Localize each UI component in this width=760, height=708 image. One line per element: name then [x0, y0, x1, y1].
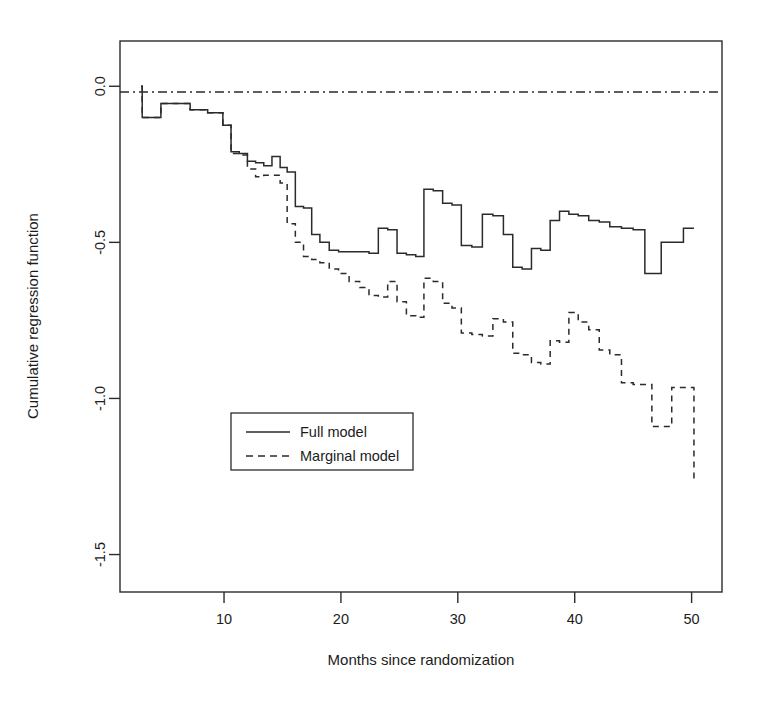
x-tick-label: 10 [216, 611, 232, 627]
y-tick-label: 0.0 [92, 76, 108, 96]
x-axis-title: Months since randomization [328, 651, 515, 668]
y-axis-title: Cumulative regression function [24, 213, 41, 419]
y-tick-label: -0.5 [92, 230, 108, 255]
legend: Full model Marginal model [231, 413, 413, 470]
figure-container: 1020304050 0.0-0.5-1.0-1.5 Months since … [0, 0, 760, 708]
cumulative-regression-step-chart: 1020304050 0.0-0.5-1.0-1.5 Months since … [0, 0, 760, 708]
x-tick-label: 40 [567, 611, 583, 627]
legend-label-marginal-model: Marginal model [300, 448, 399, 464]
x-tick-label: 50 [684, 611, 700, 627]
y-tick-label: -1.0 [92, 386, 108, 411]
x-tick-label: 30 [450, 611, 466, 627]
x-tick-label: 20 [333, 611, 349, 627]
legend-label-full-model: Full model [300, 424, 367, 440]
figure-background [0, 0, 760, 708]
y-tick-label: -1.5 [92, 542, 108, 567]
